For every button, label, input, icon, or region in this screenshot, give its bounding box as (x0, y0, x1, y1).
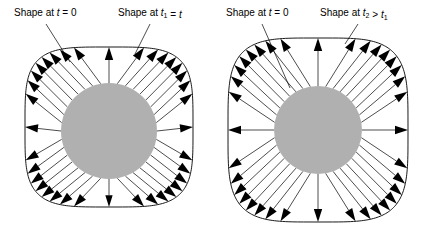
label-shape-at-t-0: Shape at t = 0 (14, 7, 77, 18)
panel-t2 (228, 38, 408, 222)
growth-diagram-figure: Shape at t = 0Shape at t1 = tShape at t … (0, 0, 423, 236)
initial-shape-circle (61, 83, 157, 179)
initial-shape-circle (274, 86, 362, 174)
diagram-canvas: Shape at t = 0Shape at t1 = tShape at t … (0, 0, 423, 236)
label-shape-at-t-0: Shape at t = 0 (226, 7, 289, 18)
panel-t1 (25, 47, 193, 207)
